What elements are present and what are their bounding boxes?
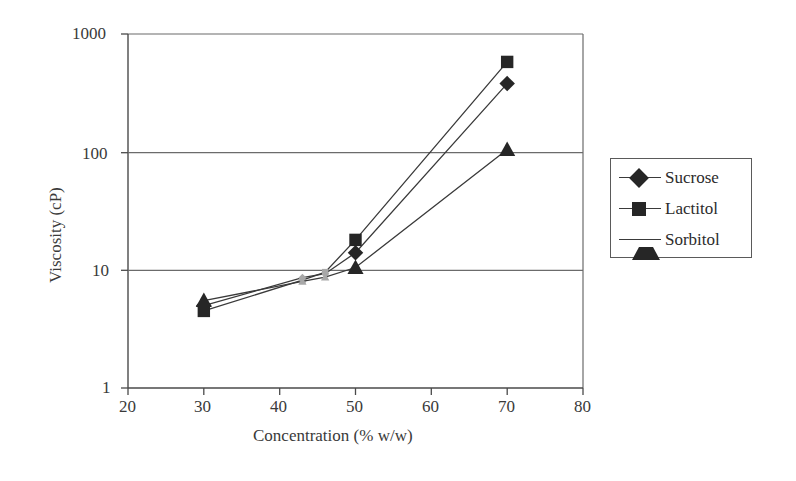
viscosity-concentration-chart: 1000 100 10 1 20 30 40 50 60 70 80 Conce… [0, 0, 796, 481]
data-point [347, 259, 363, 274]
data-point [349, 234, 361, 246]
axis-frame [128, 34, 583, 388]
data-point [501, 56, 513, 68]
triangle-icon [617, 230, 663, 250]
legend-label-lactitol: Lactitol [665, 199, 718, 219]
data-point [499, 141, 515, 156]
diamond-icon [617, 168, 663, 188]
legend-entry-sucrose: Sucrose [611, 165, 753, 191]
legend-label-sucrose: Sucrose [665, 168, 719, 188]
legend-label-sorbitol: Sorbitol [665, 230, 720, 250]
data-series-layer [196, 56, 515, 317]
series-sorbitol [196, 141, 515, 307]
y-axis-ticks [121, 34, 128, 388]
series-sucrose [196, 76, 515, 313]
x-axis-ticks [128, 388, 583, 395]
legend: Sucrose Lactitol Sorbitol [610, 158, 752, 258]
legend-entry-lactitol: Lactitol [611, 196, 753, 222]
square-icon [617, 199, 663, 219]
series-line [204, 150, 507, 301]
series-lactitol [198, 56, 514, 317]
legend-entry-sorbitol: Sorbitol [611, 227, 753, 253]
